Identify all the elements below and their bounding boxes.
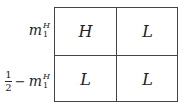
- row-label-1-subscript: 1: [43, 30, 50, 39]
- row-label-1-scripts: H 1: [43, 21, 50, 39]
- minus-sign: −: [15, 74, 26, 89]
- row-label-1-base: m: [29, 22, 42, 38]
- cell-r1-c1: H: [55, 8, 116, 55]
- cell-r1-c2: L: [117, 8, 178, 55]
- payoff-grid: H L L L: [54, 7, 178, 102]
- row-label-2-subscript: 1: [43, 81, 50, 90]
- fraction-denominator: 2: [5, 83, 11, 93]
- row-label-2-scripts: H 1: [43, 72, 50, 90]
- row-label-2-superscript: H: [43, 72, 50, 81]
- cell-r2-c2: L: [117, 56, 178, 103]
- row-label-2: 1 2 − m H 1: [5, 70, 50, 92]
- row-label-1: m H 1: [29, 20, 50, 40]
- row-label-2-fraction: 1 2: [5, 70, 12, 93]
- row-label-2-base: m: [29, 73, 42, 89]
- row-label-1-superscript: H: [43, 21, 50, 30]
- cell-r2-c1: L: [55, 56, 116, 103]
- fraction-numerator: 1: [5, 70, 11, 80]
